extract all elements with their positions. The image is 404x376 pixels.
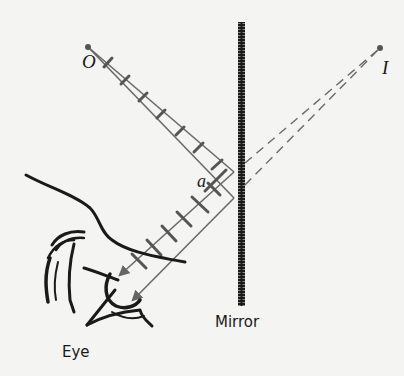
object-label: O bbox=[82, 52, 96, 71]
object-point bbox=[85, 44, 91, 50]
mirror-reflection-diagram: O I a Mirror Eye bbox=[0, 0, 404, 376]
virtual-rays bbox=[245, 48, 380, 185]
mirror-label: Mirror bbox=[215, 315, 259, 330]
image-label: I bbox=[382, 58, 388, 77]
incident-rays bbox=[88, 47, 234, 198]
eye-label: Eye bbox=[62, 345, 90, 360]
angle-label: a bbox=[197, 172, 206, 190]
mirror bbox=[238, 22, 245, 306]
image-point bbox=[377, 45, 383, 51]
eye-drawing bbox=[26, 175, 185, 326]
